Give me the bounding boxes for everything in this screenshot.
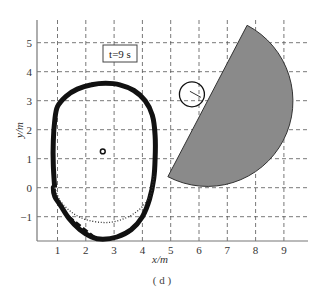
annotation-text: t=9 s <box>109 48 131 60</box>
annotation-box: t=9 s <box>103 45 137 62</box>
trajectory-line <box>53 83 155 239</box>
x-tick-label: 2 <box>83 244 89 256</box>
center-dot-marker <box>100 149 105 154</box>
y-tick-label: 1 <box>27 153 33 165</box>
y-tick-label: 4 <box>27 66 33 78</box>
figure-caption: ( d ) <box>153 274 172 287</box>
x-tick-label: 4 <box>140 244 146 256</box>
data-series <box>53 83 155 239</box>
x-tick-label: 3 <box>111 244 117 256</box>
obstacles <box>168 25 293 186</box>
x-tick-label: 5 <box>168 244 174 256</box>
y-tick-label: 3 <box>27 95 33 107</box>
x-tick-label: 8 <box>253 244 259 256</box>
x-tick-label: 9 <box>281 244 287 256</box>
x-tick-label: 1 <box>55 244 61 256</box>
y-tick-label: 2 <box>27 124 33 136</box>
x-tick-label: 6 <box>196 244 202 256</box>
y-axis-label: y/m <box>13 122 25 139</box>
y-tick-label: 5 <box>27 37 33 49</box>
x-axis-label: x/m <box>151 253 168 265</box>
circle-obstacle <box>179 82 204 107</box>
y-tick-label: 0 <box>27 182 33 194</box>
chart-figure: 123456789−1012345 t=9 s x/m y/m ( d ) <box>0 0 325 304</box>
y-tick-label: −1 <box>20 211 32 223</box>
x-tick-label: 7 <box>225 244 231 256</box>
